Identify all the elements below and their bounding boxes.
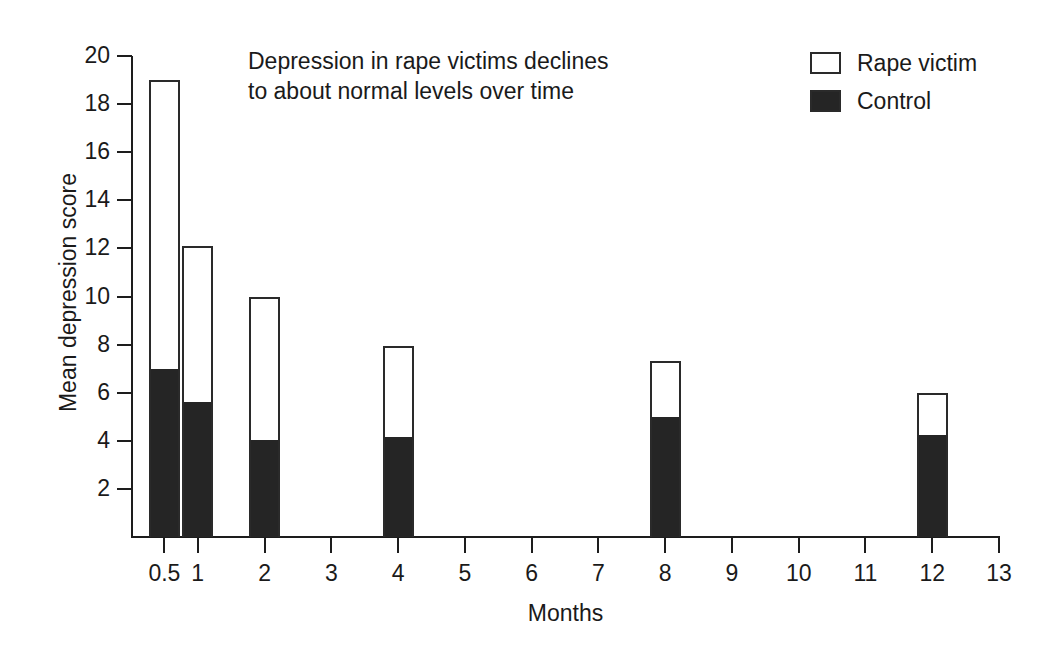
y-tick-mark (117, 440, 132, 442)
y-tick-label: 20 (58, 44, 110, 67)
x-tick-mark (931, 538, 933, 553)
x-tick-label: 2 (235, 560, 295, 586)
x-tick-label: 3 (301, 560, 361, 586)
y-tick-mark (117, 199, 132, 201)
chart-annotation: Depression in rape victims declinesto ab… (248, 46, 668, 106)
x-tick-mark (664, 538, 666, 553)
x-tick-label: 12 (902, 560, 962, 586)
x-tick-mark (397, 538, 399, 553)
y-tick-mark (117, 247, 132, 249)
x-tick-label: 4 (368, 560, 428, 586)
annotation-line: Depression in rape victims declines (248, 46, 668, 76)
bar-control (652, 417, 679, 537)
chart-legend: Rape victimControl (810, 44, 1040, 120)
x-tick-label: 8 (635, 560, 695, 586)
x-tick-mark (731, 538, 733, 553)
y-tick-mark (117, 344, 132, 346)
y-tick-mark (117, 103, 132, 105)
x-tick-mark (864, 538, 866, 553)
bar-control (151, 369, 178, 537)
x-tick-mark (163, 538, 165, 553)
y-tick-label: 2 (58, 477, 110, 500)
y-tick-label: 18 (58, 92, 110, 115)
bar-control (919, 435, 946, 537)
legend-label: Control (857, 90, 931, 113)
x-tick-label: 10 (769, 560, 829, 586)
y-tick-mark (117, 488, 132, 490)
chart-figure: 2468101214161820 0.512345678910111213 Me… (0, 0, 1046, 653)
y-axis-title: Mean depression score (56, 163, 81, 423)
x-tick-label: 7 (568, 560, 628, 586)
legend-label: Rape victim (857, 52, 977, 75)
x-tick-mark (798, 538, 800, 553)
y-tick-label: 16 (58, 140, 110, 163)
y-tick-label: 4 (58, 429, 110, 452)
x-tick-label: 1 (168, 560, 228, 586)
bar-control (385, 437, 412, 537)
plot-area: 2468101214161820 0.512345678910111213 Me… (0, 0, 1046, 653)
x-axis-title: Months (131, 600, 1000, 626)
x-tick-label: 6 (502, 560, 562, 586)
legend-swatch-rape-victim (810, 52, 841, 74)
x-tick-mark (330, 538, 332, 553)
bar-control (251, 440, 278, 537)
x-tick-mark (998, 538, 1000, 553)
legend-swatch-control (810, 90, 841, 112)
x-tick-mark (531, 538, 533, 553)
y-tick-mark (117, 55, 132, 57)
y-tick-mark (117, 151, 132, 153)
annotation-line: to about normal levels over time (248, 76, 668, 106)
y-tick-mark (117, 296, 132, 298)
y-tick-mark (117, 392, 132, 394)
x-tick-mark (597, 538, 599, 553)
x-tick-label: 9 (702, 560, 762, 586)
x-tick-label: 13 (969, 560, 1029, 586)
x-tick-label: 5 (435, 560, 495, 586)
legend-item: Rape victim (810, 44, 1040, 82)
x-tick-label: 11 (835, 560, 895, 586)
x-tick-mark (264, 538, 266, 553)
legend-item: Control (810, 82, 1040, 120)
bar-control (184, 402, 211, 537)
x-tick-mark (464, 538, 466, 553)
x-tick-mark (197, 538, 199, 553)
